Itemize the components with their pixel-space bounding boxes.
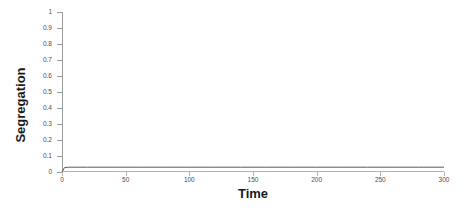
data-series-line	[62, 167, 444, 172]
y-tick-label: 0.7	[12, 57, 52, 64]
x-tick-label: 250	[365, 177, 395, 184]
y-tick-label: 0.9	[12, 25, 52, 32]
y-tick-label: 0.5	[12, 89, 52, 96]
y-tick-label: 0.4	[12, 105, 52, 112]
x-tick-label: 150	[238, 177, 268, 184]
y-tick-label: 0.3	[12, 121, 52, 128]
y-tick-label: 0	[12, 169, 52, 176]
y-tick-label: 0.6	[12, 73, 52, 80]
x-tick-label: 100	[174, 177, 204, 184]
plot-area	[62, 12, 444, 172]
y-tick-label: 0.8	[12, 41, 52, 48]
y-tick-label: 0.1	[12, 153, 52, 160]
y-tick-label: 0.2	[12, 137, 52, 144]
x-tick-label: 300	[429, 177, 459, 184]
x-tick-label: 0	[47, 177, 77, 184]
x-axis-title: Time	[62, 186, 444, 201]
x-tick-label: 50	[111, 177, 141, 184]
y-tick-label: 1	[12, 9, 52, 16]
x-tick-label: 200	[302, 177, 332, 184]
segregation-time-line-chart: Segregation Time 00.10.20.30.40.50.60.70…	[0, 0, 470, 210]
